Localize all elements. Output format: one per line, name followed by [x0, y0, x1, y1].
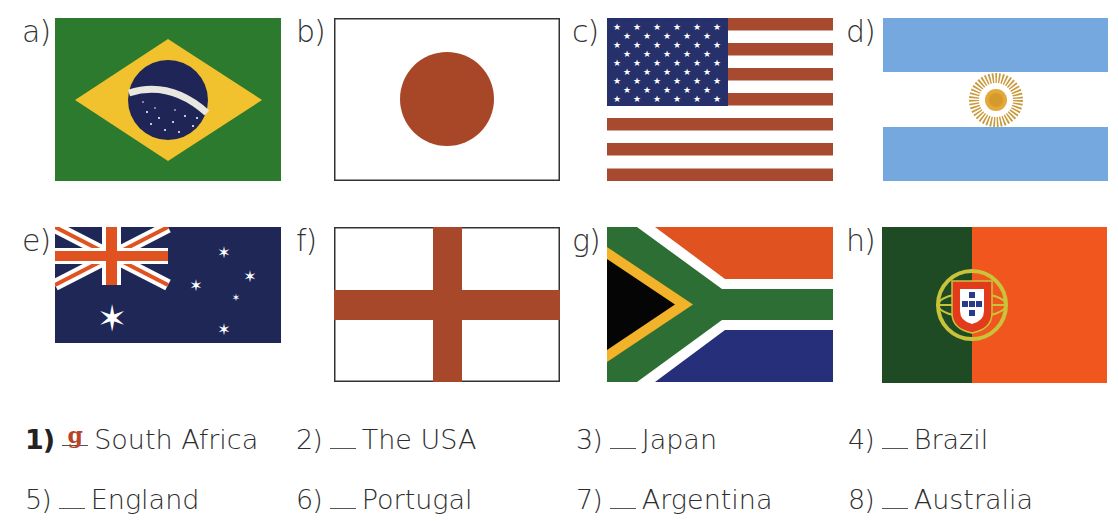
match-item-6: 6)Portugal: [296, 486, 473, 513]
svg-text:★: ★: [713, 22, 721, 32]
svg-text:★: ★: [673, 94, 681, 104]
svg-text:★: ★: [643, 31, 651, 41]
svg-text:✶: ✶: [243, 267, 256, 286]
flag-south-africa: [607, 227, 833, 382]
svg-text:★: ★: [693, 40, 701, 50]
svg-text:★: ★: [613, 58, 621, 68]
flag-label-e: e): [22, 226, 50, 256]
answer-blank[interactable]: [610, 448, 636, 449]
country-name: Argentina: [642, 484, 773, 515]
svg-text:★: ★: [703, 31, 711, 41]
answer-blank[interactable]: [882, 448, 908, 449]
match-item-8: 8)Australia: [848, 486, 1033, 513]
svg-text:✶: ✶: [189, 276, 202, 295]
flag-brazil: [55, 18, 281, 181]
country-name: Australia: [914, 484, 1033, 515]
svg-text:★: ★: [613, 76, 621, 86]
svg-text:★: ★: [643, 67, 651, 77]
svg-text:★: ★: [663, 49, 671, 59]
svg-text:★: ★: [703, 49, 711, 59]
svg-text:★: ★: [683, 49, 691, 59]
answer-blank[interactable]: [330, 448, 356, 449]
svg-text:★: ★: [633, 22, 641, 32]
country-name: Brazil: [914, 424, 989, 455]
svg-text:★: ★: [693, 22, 701, 32]
flag-portugal: [882, 227, 1107, 383]
svg-text:★: ★: [663, 67, 671, 77]
svg-text:★: ★: [653, 94, 661, 104]
svg-text:★: ★: [623, 67, 631, 77]
svg-text:★: ★: [693, 94, 701, 104]
svg-text:★: ★: [643, 85, 651, 95]
flag-label-g: g): [572, 226, 600, 256]
svg-text:★: ★: [663, 85, 671, 95]
item-number: 3): [576, 424, 602, 455]
match-item-4: 4)Brazil: [848, 426, 988, 453]
svg-text:★: ★: [673, 76, 681, 86]
svg-text:★: ★: [633, 40, 641, 50]
answer-blank[interactable]: [610, 508, 636, 509]
match-item-1: 1)gSouth Africa: [25, 426, 258, 453]
match-item-7: 7)Argentina: [576, 486, 773, 513]
country-name: Portugal: [362, 484, 473, 515]
item-number: 8): [848, 484, 874, 515]
svg-text:★: ★: [683, 85, 691, 95]
match-item-5: 5)England: [25, 486, 199, 513]
svg-text:★: ★: [693, 76, 701, 86]
country-name: The USA: [362, 424, 477, 455]
svg-text:★: ★: [713, 94, 721, 104]
flag-label-c: c): [572, 17, 598, 47]
svg-text:★: ★: [653, 58, 661, 68]
flag-label-d: d): [846, 17, 875, 47]
svg-text:★: ★: [623, 49, 631, 59]
answer-field[interactable]: g: [62, 425, 88, 446]
svg-text:★: ★: [613, 94, 621, 104]
svg-text:✶: ✶: [217, 320, 230, 339]
item-number: 2): [296, 424, 322, 455]
svg-text:✶: ✶: [232, 292, 240, 303]
svg-text:★: ★: [673, 58, 681, 68]
svg-text:★: ★: [653, 22, 661, 32]
item-number: 5): [25, 484, 51, 515]
svg-text:★: ★: [703, 67, 711, 77]
flag-label-f: f): [296, 226, 316, 256]
match-item-3: 3)Japan: [576, 426, 717, 453]
svg-text:★: ★: [643, 49, 651, 59]
svg-text:★: ★: [633, 76, 641, 86]
svg-text:★: ★: [683, 67, 691, 77]
svg-text:★: ★: [713, 40, 721, 50]
svg-text:★: ★: [613, 22, 621, 32]
svg-text:★: ★: [613, 40, 621, 50]
flag-argentina: [883, 18, 1108, 181]
answer-blank[interactable]: [330, 508, 356, 509]
flag-australia: ✶ ✶ ✶ ✶ ✶ ✶: [55, 227, 281, 343]
item-number: 7): [576, 484, 602, 515]
flag-label-b: b): [296, 17, 325, 47]
svg-text:★: ★: [683, 31, 691, 41]
country-name: Japan: [642, 424, 717, 455]
match-item-2: 2)The USA: [296, 426, 476, 453]
svg-text:★: ★: [623, 31, 631, 41]
svg-text:★: ★: [693, 58, 701, 68]
flag-japan: [334, 18, 560, 181]
svg-text:★: ★: [623, 85, 631, 95]
svg-text:★: ★: [713, 58, 721, 68]
svg-text:★: ★: [633, 58, 641, 68]
svg-text:✶: ✶: [217, 243, 230, 262]
svg-text:★: ★: [713, 76, 721, 86]
country-name: South Africa: [94, 424, 258, 455]
answer-blank[interactable]: [59, 508, 85, 509]
svg-text:★: ★: [663, 31, 671, 41]
svg-text:★: ★: [633, 94, 641, 104]
flag-england: [334, 227, 560, 382]
svg-text:★: ★: [653, 76, 661, 86]
svg-text:★: ★: [653, 40, 661, 50]
country-name: England: [91, 484, 200, 515]
flag-label-a: a): [22, 17, 50, 47]
svg-text:★: ★: [673, 22, 681, 32]
flag-usa: ★★★★★★ ★★★★★ ★★★★★★ ★★★★★ ★★★★★★ ★★★★★ ★…: [607, 18, 833, 181]
answer-blank[interactable]: [882, 508, 908, 509]
item-number: 6): [296, 484, 322, 515]
flag-label-h: h): [846, 226, 875, 256]
item-number: 1): [25, 424, 54, 455]
